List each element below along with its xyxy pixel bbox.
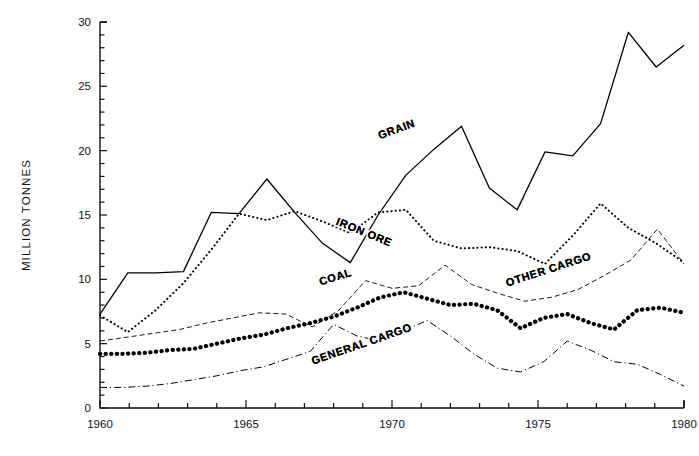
series-line-iron-ore <box>100 203 684 332</box>
series-line-other-cargo <box>100 229 684 341</box>
line-chart-canvas: 05101520253019601965197019751980MILLION … <box>0 0 699 456</box>
series-line-coal <box>100 292 684 354</box>
series-label-general-cargo: GENERAL CARGO <box>310 321 414 367</box>
y-axis-tick-label: 0 <box>85 402 91 414</box>
y-axis-tick-label: 15 <box>78 209 91 221</box>
x-axis-tick-label: 1975 <box>525 418 551 430</box>
y-axis-title: MILLION TONNES <box>20 159 32 271</box>
y-axis-tick-label: 30 <box>78 16 91 28</box>
series-line-grain <box>100 32 684 314</box>
y-axis-tick-label: 10 <box>78 273 91 285</box>
y-axis-tick-label: 25 <box>78 80 91 92</box>
y-axis-tick-label: 20 <box>78 145 91 157</box>
series-label-grain: GRAIN <box>376 117 416 141</box>
y-axis-tick-label: 5 <box>85 338 91 350</box>
series-label-iron-ore: IRON ORE <box>335 215 394 248</box>
x-axis-tick-label: 1980 <box>671 418 697 430</box>
series-label-other-cargo: OTHER CARGO <box>504 250 592 289</box>
x-axis-tick-label: 1970 <box>379 418 405 430</box>
x-axis-tick-label: 1960 <box>87 418 113 430</box>
x-axis-tick-label: 1965 <box>233 418 259 430</box>
series-label-coal: COAL <box>318 266 354 287</box>
chart-figure: 05101520253019601965197019751980MILLION … <box>0 0 699 456</box>
